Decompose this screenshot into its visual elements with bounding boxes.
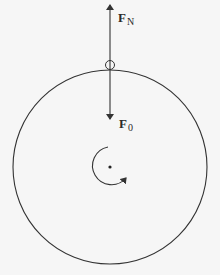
applied-force-symbol: F — [119, 116, 127, 131]
applied-force-label: F0 — [119, 115, 133, 131]
normal-force-subscript: N — [127, 16, 134, 27]
normal-force-label: FN — [118, 9, 134, 25]
disk-force-diagram — [0, 0, 220, 275]
applied-force-subscript: 0 — [128, 122, 133, 133]
center-point — [108, 165, 111, 168]
normal-force-symbol: F — [118, 10, 126, 25]
